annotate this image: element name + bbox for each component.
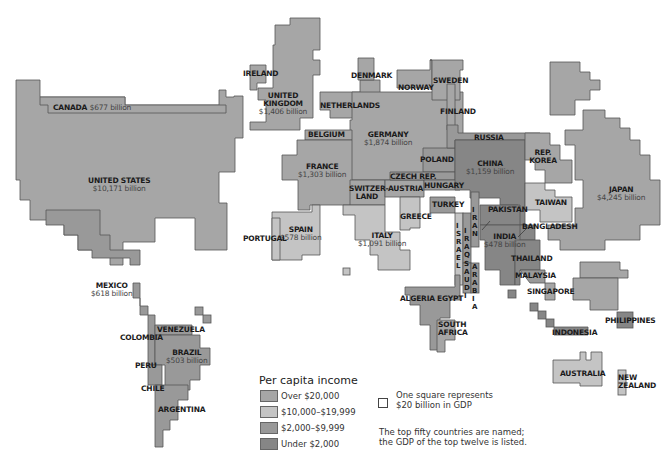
label-germany: GERMANY$1,874 billion xyxy=(364,131,412,147)
label-belgium: BELGIUM xyxy=(308,131,345,139)
shape-indo-1 xyxy=(530,303,538,311)
label-malaysia: MALAYSIA xyxy=(515,272,556,280)
label-united-kingdom: UNITED KINGDOM$1,406 billion xyxy=(258,92,308,116)
footnote: The top fifty countries are named; the G… xyxy=(379,427,527,447)
label-ireland: IRELAND xyxy=(243,70,278,78)
vertical-label-letter: A xyxy=(472,222,477,230)
legend-swatch xyxy=(260,438,278,450)
label-brazil: BRAZIL$503 billion xyxy=(166,349,208,365)
vertical-label-letter: D xyxy=(464,284,470,292)
label-bangladesh: BANGLADESH xyxy=(522,223,578,231)
label-new-zealand: NEW ZEALAND xyxy=(618,374,652,390)
square-scale-icon xyxy=(378,398,388,408)
label-poland: POLAND xyxy=(420,156,454,164)
label-russia: RUSSIA xyxy=(474,134,504,142)
label-colombia: COLOMBIA xyxy=(120,334,163,342)
vertical-label-letter: U xyxy=(464,276,469,284)
label-norway: NORWAY xyxy=(398,84,434,92)
label-hungary: HUNGARY xyxy=(424,182,464,190)
legend-item-2000-9999: $2,000–$9,999 xyxy=(260,421,345,435)
vertical-label-letter: A xyxy=(456,246,461,254)
vertical-label-letter: Q xyxy=(464,251,470,259)
label-india: INDIA$478 billion xyxy=(484,233,526,249)
label-algeria: ALGERIA xyxy=(400,295,435,303)
vertical-label-letter: B xyxy=(472,287,477,295)
label-pakistan: PAKISTAN xyxy=(488,206,528,214)
label-turkey: TURKEY xyxy=(432,201,464,209)
label-chile: CHILE xyxy=(141,385,164,393)
shape-asia-east-2 xyxy=(573,278,618,310)
shape-chile-argentina xyxy=(155,385,188,447)
vertical-label-letter: N xyxy=(472,230,478,238)
legend-item-over-20000: Over $20,000 xyxy=(260,389,339,403)
vertical-label-letter: I xyxy=(464,227,466,235)
label-sweden: SWEDEN xyxy=(433,77,468,85)
label-japan: JAPAN$4,245 billion xyxy=(597,186,645,202)
vertical-label-letter: R xyxy=(472,214,477,222)
vertical-label-letter: I xyxy=(472,206,474,214)
label-australia: AUSTRALIA xyxy=(560,370,605,378)
label-taiwan: TAIWAN xyxy=(535,199,567,207)
shape-caribbean-2 xyxy=(203,315,211,323)
shape-indo-2 xyxy=(538,311,546,319)
label-netherlands: NETHERLANDS xyxy=(320,102,380,110)
label-egypt: EGYPT xyxy=(437,295,463,303)
label-switzerland: SWITZER-LAND xyxy=(349,185,385,201)
label-czech-rep: CZECH REP. xyxy=(390,173,436,181)
label-south-africa: SOUTH AFRICA xyxy=(438,321,468,337)
label-denmark: DENMARK xyxy=(351,72,392,80)
legend-item-under-2000: Under $2,000 xyxy=(260,437,339,451)
label-thailand: THAILAND xyxy=(511,255,552,263)
label-indonesia: INDONESIA xyxy=(552,329,597,337)
label-mexico: MEXICO$618 billion xyxy=(91,282,133,298)
label-singapore: SINGAPORE xyxy=(527,288,574,296)
label-philippines: PHILIPPINES xyxy=(605,317,656,325)
shape-caribbean-1 xyxy=(195,307,203,315)
legend-swatch xyxy=(260,406,278,418)
shape-central-america xyxy=(133,283,148,315)
vertical-label-letter: A xyxy=(464,243,469,251)
legend-swatch xyxy=(260,422,278,434)
label-portugal: PORTUGAL xyxy=(243,235,287,243)
shape-japan-north xyxy=(550,62,600,115)
vertical-label-letter: A xyxy=(472,263,477,271)
label-peru: PERU xyxy=(135,362,157,370)
vertical-label-letter: S xyxy=(456,230,461,238)
label-france: FRANCE$1,303 billion xyxy=(298,163,346,179)
vertical-label-letter: A xyxy=(464,268,469,276)
square-note: One square represents $20 billion in GDP xyxy=(396,390,493,410)
label-canada: CANADA $677 billion xyxy=(53,104,131,112)
label-rep-korea: REP. KOREA xyxy=(528,149,558,165)
legend-item-10000-19999: $10,000–$19,999 xyxy=(260,405,356,419)
shape-island-1 xyxy=(508,290,516,298)
label-china: CHINA$1,159 billion xyxy=(466,160,514,176)
vertical-label-letter: R xyxy=(456,238,461,246)
label-argentina: ARGENTINA xyxy=(158,406,205,414)
vertical-label-letter: I xyxy=(472,295,474,303)
legend-title: Per capita income xyxy=(259,374,358,387)
shape-italy-island xyxy=(343,268,350,275)
vertical-label-letter: I xyxy=(456,222,458,230)
shape-indo-3 xyxy=(546,319,554,327)
label-austria: AUSTRIA xyxy=(388,185,423,193)
shape-asia-east-1 xyxy=(580,262,628,278)
vertical-label-letter: A xyxy=(472,303,477,311)
vertical-label-letter: R xyxy=(472,271,477,279)
vertical-label-letter: S xyxy=(464,260,469,268)
vertical-label-letter: L xyxy=(456,262,460,270)
label-greece: GREECE xyxy=(400,213,432,221)
vertical-label-letter: A xyxy=(472,279,477,287)
label-united-states: UNITED STATES$10,171 billion xyxy=(88,177,150,193)
vertical-label-letter: R xyxy=(464,235,469,243)
legend-swatch xyxy=(260,390,278,402)
vertical-label-letter: I xyxy=(464,292,466,300)
label-italy: ITALY$1,091 billion xyxy=(358,232,406,248)
label-finland: FINLAND xyxy=(440,108,476,116)
label-venezuela: VENEZUELA xyxy=(157,326,205,334)
vertical-label-letter: E xyxy=(456,254,461,262)
